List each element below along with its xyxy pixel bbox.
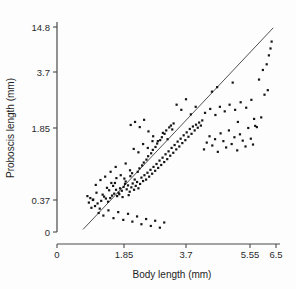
plot-canvas: 00.371.853.714.8 01.853.75.556.5 Body le…	[0, 0, 296, 289]
data-point	[152, 166, 154, 168]
data-point	[181, 142, 183, 144]
data-point	[178, 145, 180, 147]
data-point	[125, 180, 127, 182]
data-point	[174, 144, 176, 146]
regression-line-path	[83, 28, 273, 230]
data-point	[175, 148, 177, 150]
data-point	[152, 149, 154, 151]
data-point	[150, 152, 152, 154]
data-point	[109, 197, 111, 199]
data-point	[105, 197, 107, 199]
data-point	[194, 129, 196, 131]
data-point	[201, 119, 203, 121]
data-point	[166, 138, 168, 140]
x-axis-ticks: 01.853.75.556.5	[54, 244, 282, 260]
data-point	[219, 132, 221, 134]
data-point	[170, 147, 172, 149]
data-point	[117, 211, 119, 213]
data-point	[214, 114, 216, 116]
data-point	[224, 110, 226, 112]
data-point	[158, 159, 160, 161]
data-point	[127, 184, 129, 186]
data-point	[173, 122, 175, 124]
data-point	[154, 146, 156, 148]
data-point	[260, 116, 262, 118]
y-tick-label: 3.7	[37, 67, 50, 78]
data-point	[90, 207, 92, 209]
y-tick-label: 0.37	[32, 195, 51, 206]
data-point	[115, 177, 117, 179]
data-point	[129, 169, 131, 171]
data-point	[137, 151, 139, 153]
data-point	[145, 178, 147, 180]
data-point	[269, 47, 271, 49]
data-point	[253, 118, 255, 120]
data-point	[147, 147, 149, 149]
data-point	[250, 138, 252, 140]
data-point	[228, 129, 230, 131]
data-point	[147, 155, 149, 157]
data-point	[145, 218, 147, 220]
data-point	[206, 141, 208, 143]
data-point	[130, 124, 132, 126]
data-point	[155, 163, 157, 165]
data-point	[157, 167, 159, 169]
data-point	[136, 215, 138, 217]
data-point	[250, 99, 252, 101]
data-point	[271, 40, 273, 42]
data-point	[225, 146, 227, 148]
y-axis-ticks: 00.371.853.714.8	[32, 22, 58, 238]
data-point	[267, 89, 269, 91]
data-point	[125, 162, 127, 164]
data-point	[183, 134, 185, 136]
data-point	[149, 169, 151, 171]
data-point	[150, 225, 152, 227]
data-point	[142, 143, 144, 145]
data-point	[239, 133, 241, 135]
data-point	[89, 197, 91, 199]
data-point	[161, 157, 163, 159]
data-point	[143, 174, 145, 176]
data-point	[129, 191, 131, 193]
data-point	[143, 119, 145, 121]
data-point	[123, 186, 125, 188]
data-point	[123, 177, 125, 179]
data-point	[160, 164, 162, 166]
data-point	[231, 143, 233, 145]
data-point	[129, 175, 131, 177]
x-tick-label: 3.7	[179, 249, 192, 260]
data-point	[161, 136, 163, 138]
data-point	[163, 221, 165, 223]
data-point	[112, 217, 114, 219]
data-point	[107, 209, 109, 211]
data-point	[137, 187, 139, 189]
data-point	[115, 166, 117, 168]
data-point	[208, 135, 210, 137]
data-point	[108, 189, 110, 191]
data-point	[121, 196, 123, 198]
data-point	[190, 133, 192, 135]
data-point	[128, 194, 130, 196]
data-point	[147, 130, 149, 132]
y-tick-label: 1.85	[32, 123, 51, 134]
data-point	[166, 158, 168, 160]
data-point	[187, 136, 189, 138]
data-point	[141, 164, 143, 166]
data-point	[163, 161, 165, 163]
data-point	[237, 121, 239, 123]
data-point	[233, 136, 235, 138]
data-point	[96, 202, 98, 204]
data-point	[216, 86, 218, 88]
x-tick-label: 1.85	[115, 249, 134, 260]
data-point	[156, 142, 158, 144]
data-point	[159, 227, 161, 229]
data-point	[268, 54, 270, 56]
data-point	[242, 140, 244, 142]
data-point	[219, 106, 221, 108]
data-point	[114, 182, 116, 184]
data-point	[151, 173, 153, 175]
data-point	[100, 200, 102, 202]
data-point	[113, 193, 115, 195]
scatter-plot-figure: 00.371.853.714.8 01.853.75.556.5 Body le…	[0, 0, 296, 289]
data-point	[157, 140, 159, 142]
